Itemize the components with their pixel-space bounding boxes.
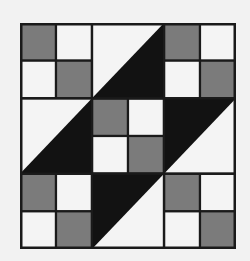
quilt-square-light xyxy=(20,61,56,99)
quilt-square-gray xyxy=(164,23,200,61)
quilt-block-svg xyxy=(20,23,236,249)
quilt-square-gray xyxy=(56,61,92,99)
quilt-square-light xyxy=(56,174,92,212)
quilt-square-light xyxy=(164,211,200,249)
quilt-block-diagram xyxy=(20,23,236,249)
quilt-square-light xyxy=(20,211,56,249)
quilt-square-light xyxy=(200,174,236,212)
quilt-square-light xyxy=(92,136,128,174)
quilt-square-light xyxy=(128,98,164,136)
quilt-square-gray xyxy=(128,136,164,174)
quilt-square-light xyxy=(200,23,236,61)
quilt-square-gray xyxy=(20,174,56,212)
quilt-square-light xyxy=(164,61,200,99)
quilt-square-gray xyxy=(92,98,128,136)
quilt-square-gray xyxy=(56,211,92,249)
quilt-square-gray xyxy=(20,23,56,61)
quilt-square-light xyxy=(56,23,92,61)
quilt-square-gray xyxy=(200,61,236,99)
quilt-square-gray xyxy=(200,211,236,249)
quilt-square-gray xyxy=(164,174,200,212)
